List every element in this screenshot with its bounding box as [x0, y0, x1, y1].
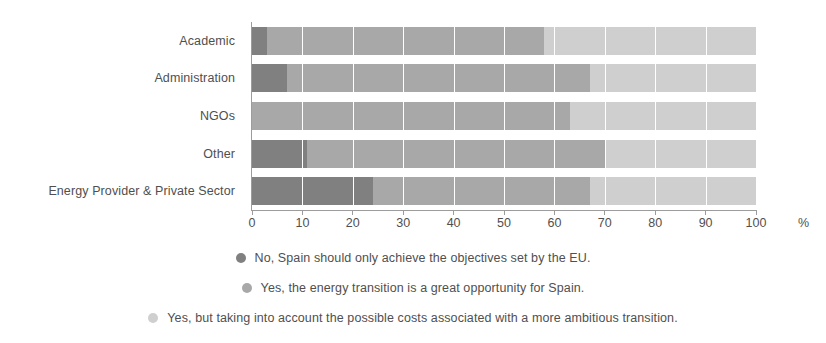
bar-segment-series-1[interactable]: [252, 27, 267, 55]
category-label-administration: Administration: [0, 60, 244, 98]
bar-segment-series-1[interactable]: [252, 177, 373, 205]
stacked-bar[interactable]: [252, 64, 756, 92]
x-axis-tick: [604, 210, 605, 215]
bar-segment-series-2[interactable]: [252, 102, 570, 130]
bar-segment-series-2[interactable]: [287, 64, 589, 92]
gridline: [756, 22, 757, 210]
x-axis-tick-label: 90: [699, 216, 713, 230]
bar-row: [252, 22, 756, 60]
legend-label: Yes, but taking into account the possibl…: [167, 311, 677, 325]
category-label-energy-provider-private-sector: Energy Provider & Private Sector: [0, 172, 244, 210]
x-axis: 0102030405060708090100: [252, 210, 756, 234]
category-label-other: Other: [0, 135, 244, 173]
bar-segment-series-2[interactable]: [373, 177, 590, 205]
bar-segment-series-1[interactable]: [252, 140, 307, 168]
bar-segment-series-2[interactable]: [267, 27, 544, 55]
legend-row: Yes, but taking into account the possibl…: [0, 303, 826, 333]
x-axis-tick-label: 0: [249, 216, 256, 230]
bar-segment-series-1[interactable]: [252, 64, 287, 92]
x-axis-tick-label: 30: [396, 216, 410, 230]
plot-area: Academic Administration NGOs Other Energ…: [0, 0, 826, 232]
stacked-bar[interactable]: [252, 102, 756, 130]
plot-canvas: [252, 22, 756, 210]
x-axis-tick: [504, 210, 505, 215]
stacked-bar[interactable]: [252, 177, 756, 205]
x-axis-tick: [756, 210, 757, 215]
legend-swatch-icon: [242, 283, 252, 293]
x-axis-tick: [352, 210, 353, 215]
bar-row: [252, 97, 756, 135]
category-axis-labels: Academic Administration NGOs Other Energ…: [0, 22, 244, 210]
y-axis-line: [251, 22, 252, 210]
bar-segment-series-3[interactable]: [544, 27, 756, 55]
bar-row: [252, 60, 756, 98]
x-axis-tick: [403, 210, 404, 215]
x-axis-tick-label: 10: [295, 216, 309, 230]
legend-item-2[interactable]: Yes, the energy transition is a great op…: [242, 281, 585, 295]
chart-legend: No, Spain should only achieve the object…: [0, 243, 826, 333]
stacked-bar[interactable]: [252, 140, 756, 168]
bar-segment-series-3[interactable]: [605, 140, 756, 168]
x-axis-tick: [252, 210, 253, 215]
legend-row: No, Spain should only achieve the object…: [0, 243, 826, 273]
legend-item-3[interactable]: Yes, but taking into account the possibl…: [148, 311, 677, 325]
legend-swatch-icon: [148, 313, 158, 323]
x-axis-tick: [705, 210, 706, 215]
x-axis-tick-label: 40: [447, 216, 461, 230]
bar-segment-series-3[interactable]: [590, 64, 756, 92]
legend-swatch-icon: [236, 253, 246, 263]
x-axis-tick-label: 20: [346, 216, 360, 230]
x-axis-tick-label: 50: [497, 216, 511, 230]
x-axis-tick: [554, 210, 555, 215]
x-axis-tick-label: 70: [598, 216, 612, 230]
bar-row: [252, 135, 756, 173]
bar-series-group: [252, 22, 756, 210]
x-axis-tick-label: 60: [547, 216, 561, 230]
legend-label: No, Spain should only achieve the object…: [255, 251, 591, 265]
category-label-ngos: NGOs: [0, 97, 244, 135]
bar-segment-series-3[interactable]: [590, 177, 756, 205]
legend-item-1[interactable]: No, Spain should only achieve the object…: [236, 251, 591, 265]
x-axis-unit-label: %: [798, 216, 809, 230]
bar-segment-series-2[interactable]: [307, 140, 604, 168]
legend-row: Yes, the energy transition is a great op…: [0, 273, 826, 303]
x-axis-tick: [655, 210, 656, 215]
bar-segment-series-3[interactable]: [570, 102, 756, 130]
legend-label: Yes, the energy transition is a great op…: [261, 281, 585, 295]
x-axis-tick-label: 80: [648, 216, 662, 230]
x-axis-tick: [453, 210, 454, 215]
bar-row: [252, 172, 756, 210]
x-axis-tick-label: 100: [746, 216, 767, 230]
category-label-academic: Academic: [0, 22, 244, 60]
stacked-bar-chart: Academic Administration NGOs Other Energ…: [0, 0, 826, 343]
x-axis-tick: [302, 210, 303, 215]
stacked-bar[interactable]: [252, 27, 756, 55]
